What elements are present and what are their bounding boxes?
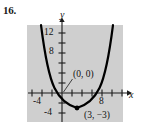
y-tick-label-8: 8: [49, 46, 54, 56]
x-axis-label: x: [129, 89, 133, 100]
y-tick-label-neg4: -4: [44, 107, 52, 117]
figure-page: 16.: [0, 0, 141, 131]
y-axis-label: y: [60, 9, 64, 20]
vertex-marker: [75, 106, 80, 111]
origin-point-label: (0, 0): [73, 69, 94, 79]
y-tick-label-12: 12: [44, 27, 54, 37]
x-tick-label-neg4: -4: [33, 96, 41, 106]
coordinate-plot: [0, 0, 141, 131]
origin-leader-line: [64, 79, 73, 92]
vertex-point-label: (3, −3): [84, 110, 110, 120]
x-tick-label-8: 8: [99, 96, 104, 106]
